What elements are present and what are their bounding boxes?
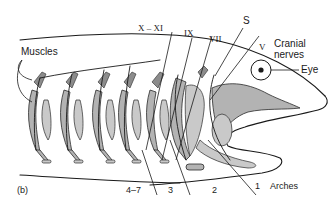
cranial-label-line2: nerves — [274, 49, 304, 60]
arch-unit — [93, 72, 115, 163]
arch-unit — [29, 72, 51, 163]
eye — [251, 60, 299, 80]
arch-label-3: 3 — [168, 185, 173, 195]
arch-unit — [119, 72, 141, 163]
nerve-label-ix: IX — [184, 28, 194, 38]
arch-unit-3 — [147, 72, 169, 163]
nerve-label-vii: VII — [209, 34, 222, 44]
muscles-pointer — [17, 60, 32, 102]
arch-label-2: 2 — [212, 185, 217, 195]
arch-label-4-7: 4–7 — [126, 185, 141, 195]
cranial-label-line1: Cranial — [274, 38, 306, 49]
arches-label: Arches — [270, 181, 299, 191]
arch-unit — [61, 72, 83, 163]
arch-label-1: 1 — [255, 181, 260, 191]
nerve-label-v: V — [259, 42, 266, 52]
eye-label: Eye — [301, 64, 319, 75]
muscles-label: Muscles — [21, 46, 58, 57]
nerve-label-x-xi: X – XI — [138, 23, 163, 33]
pharyngeal-arch-diagram: Muscles X – XI IX VII S V Cranial nerves… — [0, 0, 336, 210]
panel-label: (b) — [17, 185, 28, 195]
nerve-label-s: S — [243, 15, 250, 26]
